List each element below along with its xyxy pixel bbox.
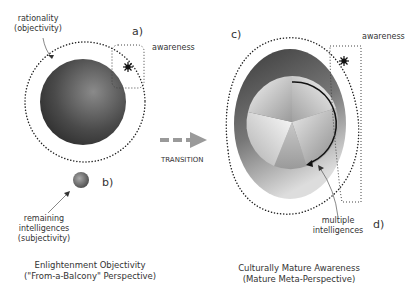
- tag-c: c): [231, 28, 241, 41]
- star-icon: [123, 62, 133, 72]
- tag-d: d): [373, 218, 384, 231]
- pointer-arrow: [48, 193, 68, 213]
- awareness-label-right: awareness: [362, 32, 405, 42]
- objectivity-sphere: [40, 59, 126, 145]
- remaining-intelligences-label: remaining intelligences (subjectivity): [14, 214, 74, 244]
- multiple-intelligences-label: multiple intelligences: [312, 216, 364, 236]
- transition-label: TRANSITION: [161, 155, 203, 165]
- awareness-label-left: awareness: [152, 43, 195, 53]
- star-icon: [339, 56, 349, 66]
- caption-right: Culturally Mature Awareness (Mature Meta…: [234, 263, 364, 285]
- small-sphere: [73, 172, 89, 188]
- rationality-label: rationality (objectivity): [14, 14, 62, 34]
- multiple-intelligences-pie: [246, 76, 338, 169]
- caption-left: Enlightenment Objectivity ("From-a-Balco…: [20, 260, 160, 282]
- tag-b: b): [102, 176, 113, 189]
- tag-a: a): [132, 25, 143, 38]
- transition-arrow: [160, 132, 207, 148]
- diagram-canvas: [0, 0, 418, 297]
